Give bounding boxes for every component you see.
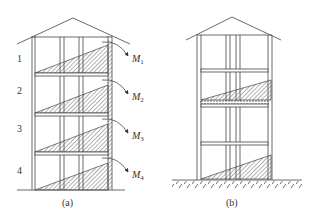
roof-b <box>186 17 281 40</box>
diagram-canvas: 1 2 3 4 M1 M2 M3 M4 (a) (b) <box>0 0 316 217</box>
moment-label-m1: M1 <box>131 53 144 66</box>
story-label-1: 1 <box>17 53 22 64</box>
moment-label-m3: M3 <box>131 130 144 143</box>
caption-a: (a) <box>62 197 73 209</box>
moment-area-story-2 <box>35 85 108 113</box>
ground-hatch-b <box>172 181 302 188</box>
story-labels-a: 1 2 3 4 <box>17 53 22 176</box>
moment-area-story-4 <box>35 163 108 190</box>
caption-b: (b) <box>226 197 238 209</box>
story-label-3: 3 <box>17 123 22 134</box>
moment-label-m2: M2 <box>131 91 144 104</box>
moment-area-story-1 <box>35 45 108 73</box>
moment-labels-a: M1 M2 M3 M4 <box>131 53 144 182</box>
roof-a <box>17 18 130 44</box>
story-label-4: 4 <box>17 165 22 176</box>
moment-area-story-3 <box>35 124 108 152</box>
floor-beams-b <box>201 69 268 145</box>
moment-label-m4: M4 <box>131 169 144 182</box>
story-label-2: 2 <box>17 85 22 96</box>
